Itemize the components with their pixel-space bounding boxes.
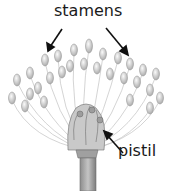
stamens-label: stamens	[54, 3, 122, 19]
pistil-cluster	[68, 104, 105, 150]
flower-illustration	[0, 0, 172, 191]
pistil-label: pistil	[118, 143, 156, 159]
stamens-anthers	[9, 39, 164, 114]
flower-diagram: stamens pistil	[0, 0, 172, 191]
receptacle	[76, 150, 98, 158]
stamens-arrow-left	[50, 29, 62, 47]
stem	[80, 158, 96, 191]
stamens-arrow-right	[106, 28, 125, 51]
